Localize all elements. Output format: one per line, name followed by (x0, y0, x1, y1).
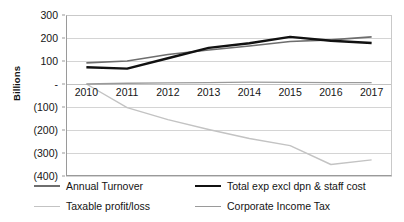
x-axis-tick-label: 2014 (238, 86, 261, 98)
y-axis-tick-mark (62, 153, 65, 154)
x-axis-tick-label: 2016 (319, 86, 342, 98)
gridline (66, 176, 392, 177)
x-axis-tick-label: 2015 (278, 86, 301, 98)
x-axis-tick-labels: 20102011201220132014201520162017 (66, 86, 392, 101)
x-axis-tick-label: 2011 (116, 86, 139, 98)
y-axis-tick-mark (62, 130, 65, 131)
x-axis-tick-label: 2010 (75, 86, 98, 98)
y-axis-tick-label: 100 (40, 55, 58, 67)
legend-swatch (34, 185, 60, 187)
legend-swatch (195, 185, 221, 187)
y-axis-tick-mark (62, 38, 65, 39)
y-axis-tick-mark (62, 107, 65, 108)
y-axis-tick-labels: 300200100-(100)(200)(300)(400) (0, 15, 62, 176)
legend-label: Taxable profit/loss (66, 200, 150, 212)
legend-swatch (34, 206, 60, 207)
x-axis-tick-label: 2013 (197, 86, 220, 98)
legend-label: Corporate Income Tax (227, 200, 330, 212)
y-axis-tick-label: (300) (33, 147, 58, 159)
series-line (86, 82, 371, 84)
y-axis-tick-label: 200 (40, 32, 58, 44)
y-axis-tick-mark (62, 61, 65, 62)
y-axis-tick-mark (62, 176, 65, 177)
x-axis-tick-label: 2017 (360, 86, 383, 98)
legend-label: Total exp excl dpn & staff cost (227, 180, 366, 192)
y-axis-tick-label: - (55, 78, 59, 90)
legend-item[interactable]: Annual Turnover (34, 180, 143, 192)
y-axis-tick-label: 300 (40, 9, 58, 21)
y-axis-tick-label: (100) (33, 101, 58, 113)
legend-swatch (195, 206, 221, 207)
line-chart: Billions 300200100-(100)(200)(300)(400) … (0, 0, 404, 222)
y-axis-tick-mark (62, 15, 65, 16)
legend-label: Annual Turnover (66, 180, 143, 192)
x-axis-tick-label: 2012 (156, 86, 179, 98)
chart-legend: Annual TurnoverTotal exp excl dpn & staf… (34, 180, 400, 220)
y-axis-tick-label: (200) (33, 124, 58, 136)
legend-item[interactable]: Corporate Income Tax (195, 200, 330, 212)
legend-item[interactable]: Taxable profit/loss (34, 200, 150, 212)
legend-item[interactable]: Total exp excl dpn & staff cost (195, 180, 366, 192)
series-line (86, 37, 371, 69)
y-axis-tick-mark (62, 84, 65, 85)
